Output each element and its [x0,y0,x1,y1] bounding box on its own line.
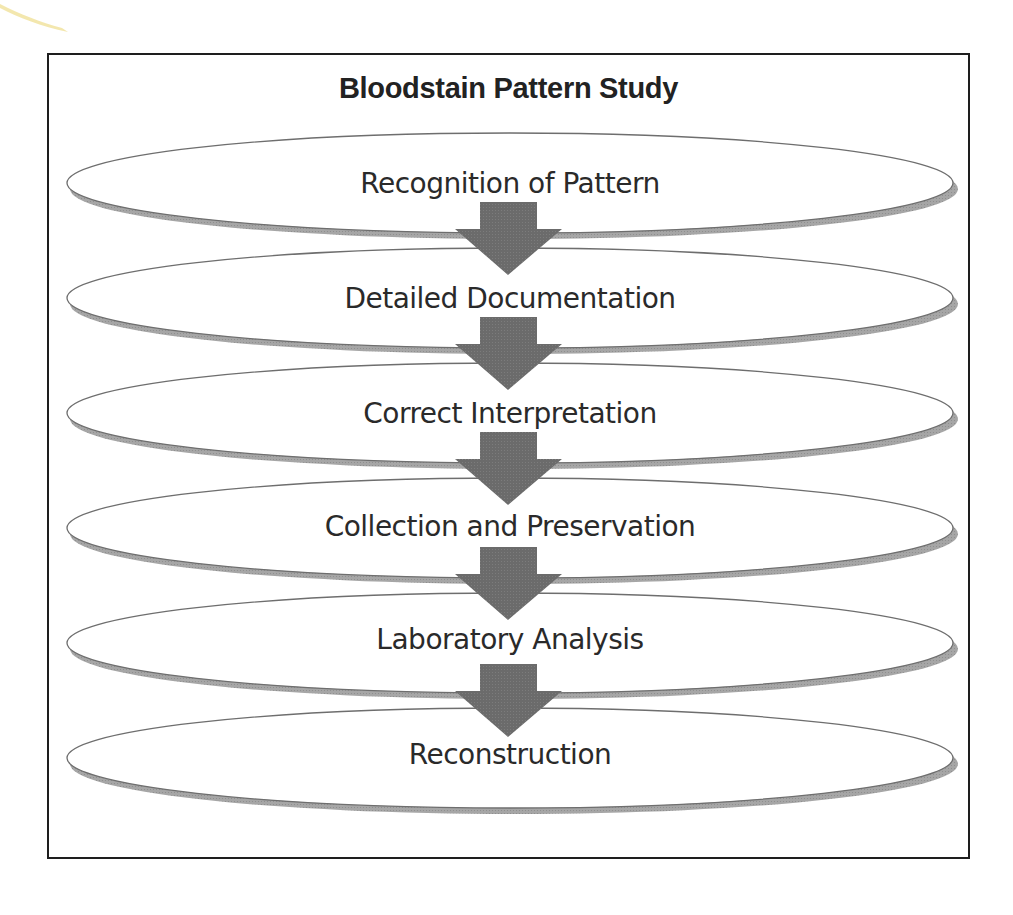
step-label-recognition: Recognition of Pattern [67,167,953,201]
step-label-interpretation: Correct Interpretation [67,397,953,431]
step-label-collection: Collection and Preservation [67,510,953,544]
step-label-documentation: Detailed Documentation [67,282,953,316]
flow-diagram [0,0,1013,915]
step-label-laboratory: Laboratory Analysis [67,623,953,657]
step-label-reconstruction: Reconstruction [67,738,953,772]
